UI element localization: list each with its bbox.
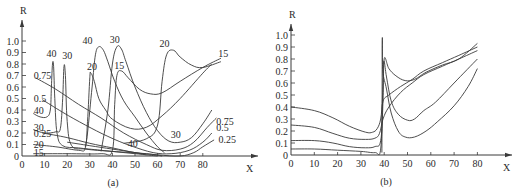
x-tick-label: 0 bbox=[20, 159, 25, 170]
x-axis-arrow-icon bbox=[505, 153, 512, 157]
panel-a-y-axis-label: R bbox=[20, 5, 27, 16]
y-tick-label: 0.2 bbox=[276, 126, 289, 137]
y-tick-label: 0 bbox=[283, 150, 288, 161]
x-tick-label: 40 bbox=[107, 159, 117, 170]
series-label: 30 bbox=[62, 50, 72, 61]
data-series-curve bbox=[33, 65, 162, 156]
panel-a-x-axis-label: X bbox=[246, 163, 254, 174]
x-tick-label: 80 bbox=[198, 159, 208, 170]
y-tick-label: 0 bbox=[14, 151, 19, 162]
y-tick-label: 0.1 bbox=[7, 139, 20, 150]
y-tick-label: 1.0 bbox=[276, 30, 289, 41]
y-tick-label: 0.4 bbox=[276, 102, 289, 113]
x-tick-label: 80 bbox=[472, 158, 482, 169]
series-start-label: 40 bbox=[34, 105, 44, 116]
x-axis-arrow-icon bbox=[251, 154, 258, 158]
series-label: 30 bbox=[171, 129, 181, 140]
panel-b-y-axis-label: R bbox=[289, 9, 296, 20]
y-tick-label: 0.2 bbox=[7, 128, 20, 139]
data-series-curve bbox=[33, 64, 212, 151]
chart-panel-b: 0102030405060708000.10.20.30.40.50.60.70… bbox=[276, 24, 513, 169]
data-series-curve bbox=[382, 38, 478, 153]
x-tick-label: 0 bbox=[289, 158, 294, 169]
x-tick-label: 30 bbox=[85, 159, 95, 170]
x-tick-label: 40 bbox=[379, 158, 389, 169]
x-tick-label: 50 bbox=[403, 158, 413, 169]
y-tick-label: 0.5 bbox=[7, 93, 20, 104]
series-start-label: 15 bbox=[34, 147, 44, 158]
series-end-label: 0.5 bbox=[216, 122, 229, 133]
y-axis-arrow-icon bbox=[20, 20, 24, 27]
series-label: 40 bbox=[83, 35, 93, 46]
y-axis-arrow-icon bbox=[289, 24, 293, 31]
series-start-label: 0.75 bbox=[34, 70, 52, 81]
x-tick-label: 30 bbox=[356, 158, 366, 169]
panel-a-caption: (a) bbox=[107, 177, 118, 189]
series-label: 20 bbox=[159, 38, 169, 49]
y-tick-label: 0.9 bbox=[7, 47, 20, 58]
panel-b-x-axis-label: X bbox=[503, 162, 511, 173]
series-label: 15 bbox=[218, 48, 228, 59]
x-tick-label: 10 bbox=[40, 159, 50, 170]
y-tick-label: 0.8 bbox=[276, 54, 289, 65]
y-tick-label: 0.7 bbox=[276, 66, 289, 77]
y-tick-label: 1.0 bbox=[7, 36, 20, 47]
x-tick-label: 10 bbox=[309, 158, 319, 169]
series-start-label: 0.5 bbox=[34, 93, 47, 104]
x-tick-label: 20 bbox=[333, 158, 343, 169]
y-tick-label: 0.3 bbox=[276, 114, 289, 125]
x-tick-label: 70 bbox=[175, 159, 185, 170]
x-tick-label: 20 bbox=[62, 159, 72, 170]
data-series-curve bbox=[291, 59, 477, 155]
y-tick-label: 0.6 bbox=[7, 82, 20, 93]
y-tick-label: 0.7 bbox=[7, 70, 20, 81]
x-tick-label: 70 bbox=[449, 158, 459, 169]
x-tick-label: 60 bbox=[426, 158, 436, 169]
y-tick-label: 0.5 bbox=[276, 90, 289, 101]
y-tick-label: 0.3 bbox=[7, 116, 20, 127]
x-tick-label: 60 bbox=[153, 159, 163, 170]
data-series-curve bbox=[85, 47, 164, 153]
series-label: 30 bbox=[110, 34, 120, 45]
x-tick-label: 50 bbox=[130, 159, 140, 170]
data-series-curve bbox=[33, 61, 157, 156]
series-start-label: 0.25 bbox=[34, 128, 52, 139]
series-label: 40 bbox=[46, 48, 56, 59]
series-label: 20 bbox=[87, 61, 97, 72]
series-label: 40 bbox=[128, 138, 138, 149]
series-label: 15 bbox=[114, 60, 124, 71]
y-tick-label: 0.4 bbox=[7, 105, 20, 116]
figure: 0102030405060708000.10.20.30.40.50.60.70… bbox=[0, 0, 518, 195]
y-tick-label: 0.9 bbox=[276, 42, 289, 53]
chart-panel-a: 0102030405060708000.10.20.30.40.50.60.70… bbox=[7, 20, 259, 170]
y-tick-label: 0.8 bbox=[7, 59, 20, 70]
series-end-label: 0.25 bbox=[219, 134, 237, 145]
panel-b-caption: (b) bbox=[380, 176, 392, 188]
y-tick-label: 0.1 bbox=[276, 138, 289, 149]
y-tick-label: 0.6 bbox=[276, 78, 289, 89]
